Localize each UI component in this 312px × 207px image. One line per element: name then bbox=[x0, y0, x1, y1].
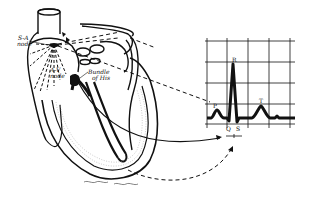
ecg-label-r: R bbox=[232, 56, 237, 63]
av-node bbox=[70, 74, 80, 86]
sa-arrowheads bbox=[62, 32, 70, 43]
ecg-grid bbox=[205, 38, 295, 128]
artist-signature bbox=[84, 181, 138, 184]
bundle-leader-line bbox=[80, 72, 88, 78]
av-to-q-curve bbox=[78, 82, 220, 142]
bundle-of-his-label-2: of His bbox=[92, 74, 110, 82]
ecg-trace bbox=[207, 64, 295, 122]
ecg-label-s: S bbox=[236, 125, 240, 132]
heart-conduction-diagram: P R T Q S S-A node A-V node Bundle of Hi… bbox=[0, 0, 312, 207]
ecg-label-t: T bbox=[259, 97, 263, 104]
ventricle-to-s-dashes bbox=[128, 148, 232, 180]
q-arrowhead bbox=[216, 135, 222, 140]
atrial-conduction-rays bbox=[30, 44, 66, 92]
av-node-label-2: node bbox=[50, 72, 65, 79]
ecg-label-p: P bbox=[213, 102, 217, 109]
ecg-label-q: Q bbox=[226, 125, 231, 132]
